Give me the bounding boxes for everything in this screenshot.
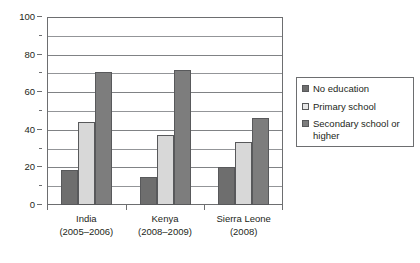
x-axis-ticks [47,205,283,211]
gridline [48,92,282,93]
bar-chart-figure: 020406080100 India(2005–2006)Kenya(2008–… [0,0,420,263]
gridline [48,55,282,56]
y-axis-tick [37,54,42,55]
x-axis-tick [204,205,205,210]
x-axis-group-label: India(2005–2006) [47,213,126,238]
legend-item: Primary school [302,101,409,113]
x-axis-tick [126,205,127,210]
y-axis-tick-label: 0 [30,200,35,210]
x-axis-group-label: Sierra Leone(2008) [204,213,283,238]
chart-legend: No education Primary school Secondary sc… [296,77,414,147]
y-axis-tick-label: 80 [24,50,35,60]
legend-item: No education [302,83,409,95]
gridline [48,111,282,112]
legend-swatch-primary-school [302,103,309,110]
y-axis-tick-label: 100 [19,12,35,22]
x-axis-group-name: Kenya [126,213,205,226]
x-axis-group-name: Sierra Leone [204,213,283,226]
y-axis-minor-tick [39,72,42,73]
x-axis-tick [282,205,283,210]
legend-label-no-education: No education [313,83,369,95]
x-axis-group-period: (2008–2009) [126,226,205,239]
x-axis-group-period: (2005–2006) [47,226,126,239]
y-axis-tick-label: 20 [24,162,35,172]
gridline [48,73,282,74]
x-axis-group-period: (2008) [204,226,283,239]
gridline [48,130,282,131]
y-axis-tick [37,166,42,167]
plot-area [47,17,283,205]
legend-swatch-secondary-school [302,120,309,127]
y-axis-minor-tick [39,110,42,111]
y-axis-tick [37,91,42,92]
gridline [48,36,282,37]
x-axis-group-name: India [47,213,126,226]
x-axis-group-label: Kenya(2008–2009) [126,213,205,238]
gridline [48,167,282,168]
legend-item: Secondary school or higher [302,118,409,141]
gridline [48,149,282,150]
y-axis-tick [37,204,42,205]
x-axis-tick [47,205,48,210]
legend-swatch-no-education [302,85,309,92]
y-axis-tick [37,16,42,17]
y-axis-minor-tick [39,148,42,149]
y-axis-tick-label: 40 [24,125,35,135]
figure-caption [8,252,412,263]
y-axis-minor-tick [39,35,42,36]
y-axis-tick [37,129,42,130]
legend-label-secondary-school: Secondary school or higher [313,118,409,141]
y-axis-tick-label: 60 [24,87,35,97]
y-axis-minor-tick [39,185,42,186]
gridline [48,186,282,187]
legend-label-primary-school: Primary school [313,101,376,113]
y-axis: 020406080100 [0,0,47,263]
